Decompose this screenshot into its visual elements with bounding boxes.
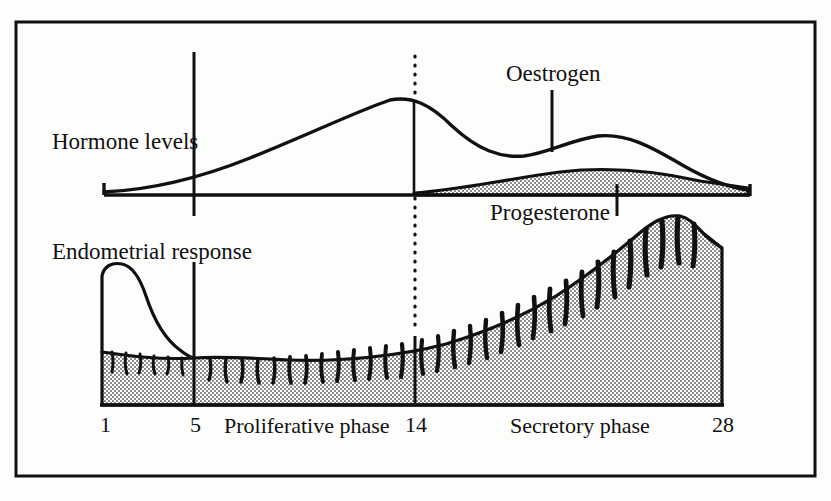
figure-container: Hormone levels Endometrial response Oest… — [0, 0, 831, 501]
day-tick-14: 14 — [405, 414, 427, 436]
hormone-levels-label: Hormone levels — [52, 130, 198, 153]
oestrogen-label: Oestrogen — [506, 62, 601, 85]
day-tick-1: 1 — [100, 414, 111, 436]
endometrial-response-label: Endometrial response — [52, 240, 252, 263]
day-tick-5: 5 — [190, 414, 201, 436]
progesterone-label: Progesterone — [490, 201, 610, 224]
proliferative-phase-label: Proliferative phase — [224, 415, 390, 437]
menstruation-shedding-outline — [102, 264, 194, 359]
secretory-phase-label: Secretory phase — [510, 415, 650, 437]
day-tick-28: 28 — [712, 414, 734, 436]
